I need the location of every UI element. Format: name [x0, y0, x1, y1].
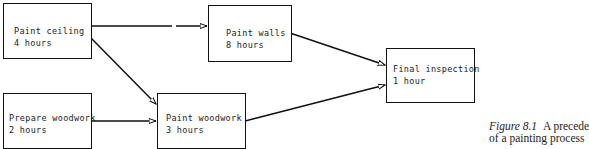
figure-label: Figure 8.1 [489, 120, 537, 132]
edge-ceiling-to-woodwork [91, 38, 156, 104]
node-duration: 3 hours [166, 124, 242, 136]
node-duration: 2 hours [9, 124, 96, 136]
node-duration: 8 hours [226, 39, 286, 51]
node-final-inspection: Final inspection 1 hour [386, 48, 475, 103]
node-title: Paint ceiling [14, 25, 84, 37]
edge-walls-to-inspection [290, 33, 385, 65]
figure-caption: Figure 8.1 A precede of a painting proce… [489, 120, 589, 144]
node-duration: 4 hours [14, 37, 84, 49]
caption-line-2: of a painting process [489, 132, 589, 144]
node-paint-ceiling: Paint ceiling 4 hours [3, 3, 92, 59]
node-title: Final inspection [393, 63, 480, 75]
node-paint-walls: Paint walls 8 hours [208, 5, 292, 62]
node-title: Paint walls [226, 27, 286, 39]
node-title: Prepare woodwork [9, 112, 96, 124]
node-prepare-woodwork: Prepare woodwork 2 hours [3, 93, 92, 149]
node-paint-woodwork: Paint woodwork 3 hours [157, 93, 246, 149]
node-title: Paint woodwork [166, 112, 242, 124]
edge-woodwork-to-inspection [245, 85, 385, 121]
caption-line-1: A precede [543, 120, 589, 132]
node-duration: 1 hour [393, 75, 480, 87]
